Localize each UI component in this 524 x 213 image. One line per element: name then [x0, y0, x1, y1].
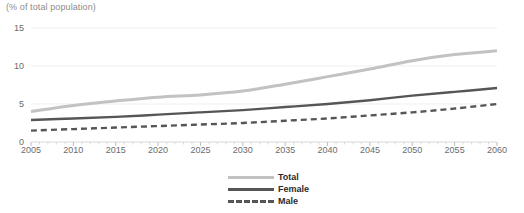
- x-tick-label-2020: 2020: [138, 145, 178, 155]
- chart-gridlines: [31, 28, 497, 142]
- y-tick-label-15: 15: [6, 23, 24, 33]
- x-tick-label-2005: 2005: [11, 145, 51, 155]
- chart-legend: Total Female Male: [228, 171, 348, 207]
- legend-item-male[interactable]: Male: [228, 195, 348, 207]
- legend-item-female[interactable]: Female: [228, 183, 348, 195]
- chart-line-total: [31, 51, 497, 112]
- x-tick-label-2015: 2015: [96, 145, 136, 155]
- x-tick-label-2040: 2040: [308, 145, 348, 155]
- legend-label-female: Female: [274, 184, 309, 194]
- x-tick-label-2025: 2025: [180, 145, 220, 155]
- y-tick-label-5: 5: [6, 99, 24, 109]
- legend-line-total-icon: [228, 171, 274, 183]
- legend-line-female-icon: [228, 183, 274, 195]
- x-tick-label-2010: 2010: [53, 145, 93, 155]
- chart-series-group: [31, 51, 497, 131]
- legend-item-total[interactable]: Total: [228, 171, 348, 183]
- x-tick-label-2050: 2050: [392, 145, 432, 155]
- x-tick-label-2060: 2060: [477, 145, 517, 155]
- legend-label-male: Male: [274, 196, 298, 206]
- x-tick-label-2045: 2045: [350, 145, 390, 155]
- x-tick-label-2030: 2030: [223, 145, 263, 155]
- y-tick-label-10: 10: [6, 61, 24, 71]
- x-tick-label-2055: 2055: [435, 145, 475, 155]
- x-tick-label-2035: 2035: [265, 145, 305, 155]
- legend-label-total: Total: [274, 172, 299, 182]
- legend-line-male-icon: [228, 195, 274, 207]
- chart-container: (% of total population) 051015 200520102…: [0, 0, 524, 213]
